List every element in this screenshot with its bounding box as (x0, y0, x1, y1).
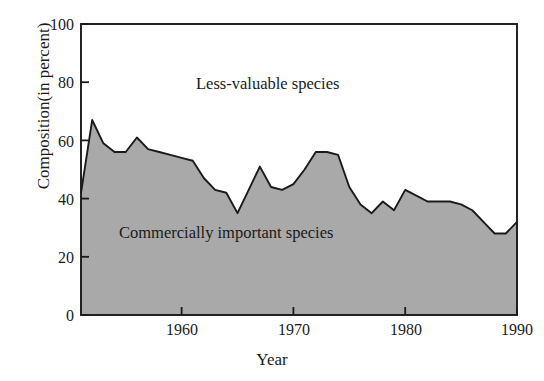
annotation-less-valuable-species: Less-valuable species (196, 75, 339, 93)
annotation-commercially-important-species: Commercially important species (119, 224, 333, 242)
x-tick-label-1980: 1980 (371, 322, 441, 338)
area-fill-commercially-important-species (81, 120, 517, 315)
y-tick-label-60: 60 (18, 134, 74, 150)
y-tick-label-0: 0 (18, 308, 74, 324)
x-tick-label-1970: 1970 (259, 322, 329, 338)
chart-figure: Composition(in percent) 100 80 60 40 20 … (0, 0, 544, 381)
x-tick-label-1960: 1960 (147, 322, 217, 338)
x-tick-label-1990: 1990 (482, 322, 544, 338)
x-axis-title: Year (0, 350, 544, 370)
y-tick-label-40: 40 (18, 192, 74, 208)
y-tick-label-20: 20 (18, 250, 74, 266)
y-tick-label-100: 100 (18, 17, 74, 33)
y-tick-label-80: 80 (18, 75, 74, 91)
